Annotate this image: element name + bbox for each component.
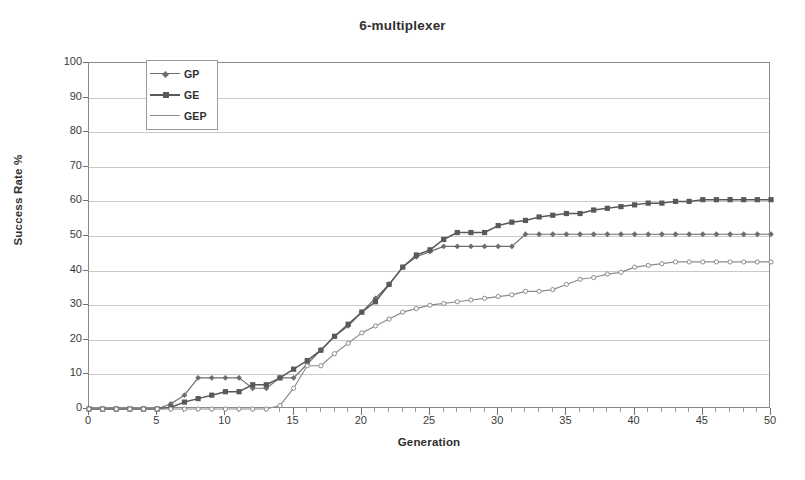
data-point-marker <box>537 289 541 293</box>
data-point-marker <box>537 214 542 219</box>
data-point-marker <box>469 298 473 302</box>
data-point-marker <box>196 396 201 401</box>
data-point-marker <box>455 230 460 235</box>
data-point-marker <box>346 341 350 345</box>
data-point-marker <box>768 231 774 237</box>
data-point-marker <box>141 407 145 411</box>
legend-item-gep[interactable]: GEP <box>150 109 216 123</box>
data-point-marker <box>564 211 569 216</box>
data-point-marker <box>577 211 582 216</box>
y-axis-title: Success Rate % <box>12 120 24 280</box>
data-point-marker <box>209 375 215 381</box>
data-point-marker <box>577 231 583 237</box>
data-point-marker <box>509 220 514 225</box>
data-point-marker <box>727 231 733 237</box>
data-point-marker <box>223 389 228 394</box>
y-tick-label: 0 <box>48 401 82 413</box>
series-gp <box>86 231 774 412</box>
data-point-marker <box>414 307 418 311</box>
y-axis-tick-labels: 0102030405060708090100 <box>44 62 82 408</box>
data-point-marker <box>182 399 187 404</box>
data-point-marker <box>468 230 473 235</box>
legend-item-gp[interactable]: GP <box>150 67 216 81</box>
legend-label: GEP <box>180 110 207 122</box>
data-point-marker <box>510 293 514 297</box>
legend-item-ge[interactable]: GE <box>150 88 216 102</box>
data-point-marker <box>468 243 474 249</box>
data-point-marker <box>646 263 650 267</box>
data-point-marker <box>387 317 391 321</box>
data-point-marker <box>428 303 432 307</box>
data-point-marker <box>687 260 691 264</box>
data-point-marker <box>701 260 705 264</box>
data-point-marker <box>633 265 637 269</box>
data-point-marker <box>659 201 664 206</box>
data-point-marker <box>605 206 610 211</box>
data-point-marker <box>768 197 773 202</box>
data-point-marker <box>673 260 677 264</box>
data-point-marker <box>686 231 692 237</box>
data-point-marker <box>373 324 377 328</box>
y-tick-label: 50 <box>48 228 82 240</box>
data-point-marker <box>700 197 705 202</box>
data-point-marker <box>523 289 527 293</box>
data-point-marker <box>496 223 501 228</box>
data-point-marker <box>128 407 132 411</box>
data-point-marker <box>496 294 500 298</box>
data-point-marker <box>291 367 296 372</box>
data-point-marker <box>646 201 651 206</box>
x-tick-mark-major <box>429 408 430 415</box>
data-point-marker <box>714 260 718 264</box>
data-point-marker <box>209 393 214 398</box>
chart-title: 6-multiplexer <box>0 18 805 33</box>
data-point-marker <box>373 299 378 304</box>
y-tick-label: 10 <box>48 366 82 378</box>
data-point-marker <box>454 243 460 249</box>
data-point-marker <box>727 197 732 202</box>
data-point-marker <box>742 260 746 264</box>
data-point-marker <box>414 252 419 257</box>
data-point-marker <box>101 407 105 411</box>
data-point-marker <box>277 375 282 380</box>
y-tick-label: 40 <box>48 263 82 275</box>
y-tick-label: 60 <box>48 193 82 205</box>
data-point-marker <box>223 375 229 381</box>
x-tick-mark-major <box>702 408 703 415</box>
data-point-marker <box>591 231 597 237</box>
data-point-marker <box>551 288 555 292</box>
y-tick-label: 20 <box>48 332 82 344</box>
data-point-marker <box>714 231 720 237</box>
data-point-marker <box>673 199 678 204</box>
x-axis-title: Generation <box>88 436 770 448</box>
x-tick-mark-major <box>565 408 566 415</box>
data-point-marker <box>359 310 364 315</box>
data-point-marker <box>87 407 91 411</box>
data-point-marker <box>182 407 186 411</box>
data-point-marker <box>196 407 200 411</box>
data-point-marker <box>482 296 486 300</box>
data-point-marker <box>687 199 692 204</box>
data-point-marker <box>495 243 501 249</box>
x-tick-mark-major <box>293 408 294 415</box>
data-point-marker <box>741 197 746 202</box>
y-tick-label: 80 <box>48 124 82 136</box>
data-point-marker <box>251 407 255 411</box>
data-point-marker <box>442 301 446 305</box>
data-point-marker <box>250 382 255 387</box>
data-point-marker <box>619 270 623 274</box>
data-point-marker <box>728 260 732 264</box>
data-point-marker <box>318 348 323 353</box>
data-point-marker <box>236 389 241 394</box>
legend-marker-diamond-icon <box>162 70 169 77</box>
data-point-marker <box>550 213 555 218</box>
data-point-marker <box>210 407 214 411</box>
chart-container: 6-multiplexer Success Rate % Generation … <box>0 0 805 480</box>
data-point-marker <box>578 277 582 281</box>
data-point-marker <box>605 272 609 276</box>
data-point-marker <box>400 265 405 270</box>
data-point-marker <box>700 231 706 237</box>
data-point-marker <box>482 243 488 249</box>
y-tick-label: 30 <box>48 297 82 309</box>
legend-label: GE <box>180 89 200 101</box>
legend: GPGEGEP <box>146 60 218 130</box>
